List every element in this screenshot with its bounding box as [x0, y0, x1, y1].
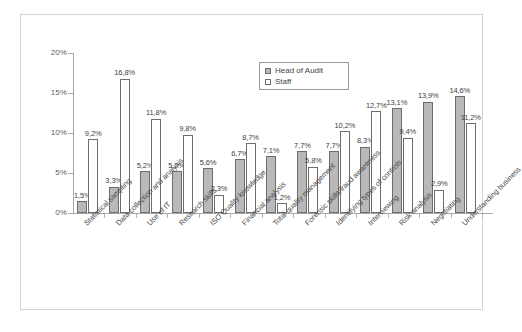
- y-axis-tick-label: 5%: [23, 168, 67, 177]
- bar-staff[interactable]: [466, 123, 476, 213]
- y-axis-tick-label: 20%: [23, 48, 67, 57]
- bar-value-label: 14,6%: [448, 86, 472, 95]
- bar-value-label: 9,2%: [81, 129, 105, 138]
- y-axis-tick-label-wrap: 20%: [21, 48, 67, 58]
- bar-value-label: 8,7%: [239, 133, 263, 142]
- bar-value-label: 13,1%: [385, 98, 409, 107]
- x-axis-tick: [262, 214, 263, 218]
- x-axis-tick: [388, 214, 389, 218]
- y-axis-tick-label: 15%: [23, 88, 67, 97]
- x-axis-tick: [482, 214, 483, 218]
- chart-figure-frame: 0%5%10%15%20% 1,5%9,2%3,3%16,8%5,2%11,8%…: [20, 14, 483, 310]
- bar-value-label: 2,9%: [427, 179, 451, 188]
- x-axis-tick: [325, 214, 326, 218]
- bar-value-label: 11,8%: [144, 108, 168, 117]
- bar-value-label: 7,1%: [259, 146, 283, 155]
- bar-group: 14,6%11,2%: [451, 53, 482, 213]
- bar-value-label: 13,9%: [416, 91, 440, 100]
- y-axis-tick-label-wrap: 15%: [21, 88, 67, 98]
- bar-group: 1,5%9,2%: [73, 53, 104, 213]
- chart-legend: Head of Audit Staff: [259, 62, 349, 90]
- bar-staff[interactable]: [88, 139, 98, 213]
- bar-staff[interactable]: [340, 131, 350, 213]
- bar-value-label: 9,4%: [396, 127, 420, 136]
- bar-staff[interactable]: [403, 138, 413, 213]
- y-axis-tick-label: 10%: [23, 128, 67, 137]
- x-axis-tick: [419, 214, 420, 218]
- bar-group: 5,2%9,8%: [167, 53, 198, 213]
- bar-staff[interactable]: [151, 119, 161, 213]
- bar-value-label: 7,7%: [290, 141, 314, 150]
- legend-swatch-head-of-audit: [265, 68, 271, 74]
- bar-value-label: 11,2%: [459, 113, 483, 122]
- y-axis-tick: [68, 213, 73, 214]
- bar-group: 13,9%2,9%: [419, 53, 450, 213]
- bar-value-label: 9,8%: [176, 124, 200, 133]
- y-axis-tick-label-wrap: 10%: [21, 128, 67, 138]
- x-axis-tick: [293, 214, 294, 218]
- bar-value-label: 10,2%: [333, 121, 357, 130]
- bar-head-of-audit[interactable]: [77, 201, 87, 213]
- bar-value-label: 5,6%: [196, 158, 220, 167]
- y-axis-tick-label: 0%: [23, 208, 67, 217]
- legend-item-head-of-audit[interactable]: Head of Audit: [265, 66, 343, 76]
- bar-staff[interactable]: [183, 135, 193, 213]
- x-axis-tick: [230, 214, 231, 218]
- bar-group: 13,1%9,4%: [388, 53, 419, 213]
- legend-item-staff[interactable]: Staff: [265, 77, 343, 87]
- y-axis-tick-label-wrap: 0%: [21, 208, 67, 218]
- bar-value-label: 16,8%: [113, 68, 137, 77]
- legend-label-head-of-audit: Head of Audit: [275, 66, 323, 76]
- x-axis-tick: [451, 214, 452, 218]
- legend-label-staff: Staff: [275, 77, 291, 87]
- y-axis-tick-label-wrap: 5%: [21, 168, 67, 178]
- x-axis-tick: [199, 214, 200, 218]
- x-axis-tick: [104, 214, 105, 218]
- x-axis-tick: [136, 214, 137, 218]
- legend-swatch-staff: [265, 79, 271, 85]
- bar-value-label: 5,8%: [301, 156, 325, 165]
- bar-head-of-audit[interactable]: [172, 171, 182, 213]
- x-axis-tick: [167, 214, 168, 218]
- x-axis-tick: [356, 214, 357, 218]
